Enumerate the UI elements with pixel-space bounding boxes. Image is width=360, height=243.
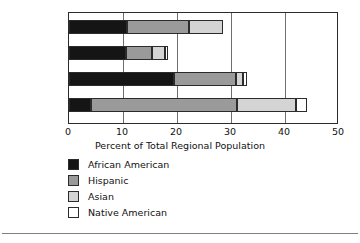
legend-item-african-american: African American: [68, 156, 308, 172]
bar-segment-midwest-hispanic: [126, 46, 152, 60]
legend-item-native-american: Native American: [68, 204, 308, 220]
x-tick-50: 50: [318, 126, 358, 137]
bar-segment-northeast-african-american: [69, 20, 127, 34]
bar-northeast: [69, 20, 339, 34]
legend-label: African American: [88, 159, 169, 170]
plot-area: [68, 12, 338, 124]
chart-legend: African AmericanHispanicAsianNative Amer…: [68, 156, 308, 220]
x-tick-0: 0: [48, 126, 88, 137]
bar-segment-west-native-american: [296, 98, 307, 112]
bar-segment-south-native-american: [243, 72, 247, 86]
x-tick-10: 10: [102, 126, 142, 137]
bar-segment-northeast-asian: [189, 20, 224, 34]
bar-segment-west-asian: [237, 98, 295, 112]
bar-segment-midwest-asian: [152, 46, 166, 60]
bar-segment-south-african-american: [69, 72, 174, 86]
legend-item-asian: Asian: [68, 188, 308, 204]
x-axis-title: Percent of Total Regional Population: [0, 140, 360, 151]
bar-segment-northeast-hispanic: [127, 20, 189, 34]
bar-segment-west-african-american: [69, 98, 91, 112]
bar-west: [69, 98, 339, 112]
x-tick-20: 20: [156, 126, 196, 137]
stacked-bar-chart-figure: Northeast Midwest South West 01020304050…: [0, 0, 360, 243]
x-tick-40: 40: [264, 126, 304, 137]
bar-segment-south-hispanic: [174, 72, 236, 86]
bar-south: [69, 72, 339, 86]
bar-segment-west-hispanic: [91, 98, 238, 112]
bar-segment-midwest-african-american: [69, 46, 126, 60]
footer-divider: [2, 233, 358, 234]
legend-swatch-native-american: [68, 207, 79, 218]
bar-segment-south-asian: [236, 72, 243, 86]
x-tick-30: 30: [210, 126, 250, 137]
legend-label: Asian: [88, 191, 114, 202]
legend-swatch-hispanic: [68, 175, 79, 186]
bar-segment-midwest-native-american: [165, 46, 168, 60]
legend-swatch-asian: [68, 191, 79, 202]
plot-inner: [69, 13, 337, 123]
legend-label: Hispanic: [88, 175, 128, 186]
legend-swatch-african-american: [68, 159, 79, 170]
legend-label: Native American: [88, 207, 167, 218]
legend-item-hispanic: Hispanic: [68, 172, 308, 188]
bar-midwest: [69, 46, 339, 60]
